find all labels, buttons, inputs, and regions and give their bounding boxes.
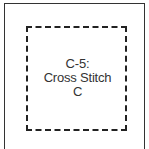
tile-code: C-5: [26, 57, 129, 71]
tile-letter: C [26, 85, 129, 99]
tile-label: C-5: Cross Stitch C [26, 57, 129, 99]
tile-name: Cross Stitch [26, 71, 129, 85]
